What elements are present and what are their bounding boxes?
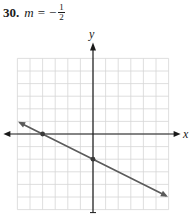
marked-point: [40, 132, 45, 137]
marked-point: [91, 157, 96, 162]
coordinate-plane: [0, 0, 193, 217]
x-axis-arrow-left-icon: [3, 131, 10, 137]
x-axis-arrow-right-icon: [174, 131, 181, 137]
y-axis-arrow-up-icon: [90, 42, 96, 50]
